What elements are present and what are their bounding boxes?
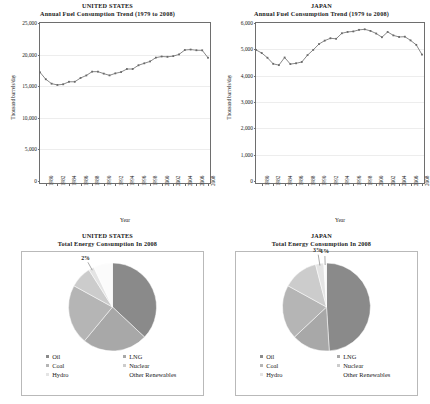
y-tick-label: 5,000 xyxy=(25,146,40,152)
legend-item-other-renewables[interactable]: Other Renewables xyxy=(337,371,410,378)
x-tick-mark xyxy=(342,183,343,186)
y-tick-label: 5,000 xyxy=(241,46,256,52)
japan-pie-graphic: 49%14%20%13%3%1% xyxy=(236,252,419,354)
legend-item-lng[interactable]: LNG xyxy=(337,353,410,360)
y-tick-label: 25,000 xyxy=(22,20,40,26)
us-line-plot-area: 05,00010,00015,00020,00025,0001980198219… xyxy=(39,22,211,184)
legend-swatch-other-renewables xyxy=(337,373,340,376)
legend-label: Nuclear xyxy=(343,362,363,369)
x-tick-mark xyxy=(127,183,128,186)
legend-swatch-oil xyxy=(46,355,49,358)
us-pie-graphic: 37%24%22%8%2%7% xyxy=(22,252,205,354)
legend-swatch-nuclear xyxy=(123,364,126,367)
japan-pie-plot-area: 49%14%20%13%3%1% OilLNGCoalNuclearHydroO… xyxy=(235,251,418,396)
x-tick-mark xyxy=(46,183,47,186)
legend-item-nuclear[interactable]: Nuclear xyxy=(337,362,410,369)
x-tick-mark xyxy=(262,183,263,186)
legend-label: Oil xyxy=(52,353,60,360)
legend-swatch-lng xyxy=(337,355,340,358)
legend-swatch-coal xyxy=(46,364,49,367)
legend-swatch-oil xyxy=(260,355,263,358)
legend-item-coal[interactable]: Coal xyxy=(260,362,333,369)
x-tick-mark xyxy=(196,183,197,186)
y-tick-label: 4,000 xyxy=(241,73,256,79)
pie-slices xyxy=(236,252,419,354)
japan-pie-chart-panel: JAPAN Total Energy Consumption In 2008 4… xyxy=(214,232,429,404)
x-tick-mark xyxy=(81,183,82,186)
x-tick-mark xyxy=(353,183,354,186)
y-tick-label: 20,000 xyxy=(22,52,40,58)
legend-item-coal[interactable]: Coal xyxy=(46,362,119,369)
legend-item-other-renewables[interactable]: Other Renewables xyxy=(123,371,196,378)
legend-item-oil[interactable]: Oil xyxy=(46,353,119,360)
y-tick-label: 1,000 xyxy=(241,152,256,158)
y-tick-label: 6,000 xyxy=(241,20,256,26)
legend-item-hydro[interactable]: Hydro xyxy=(46,371,119,378)
x-tick-mark xyxy=(330,183,331,186)
legend-label: Coal xyxy=(266,362,278,369)
us-line-chart-panel: UNITED STATES Annual Fuel Consumption Tr… xyxy=(0,2,215,228)
x-tick-mark xyxy=(69,183,70,186)
japan-line-y-axis-label: Thousand barrels/day xyxy=(226,51,232,143)
legend-swatch-lng xyxy=(123,355,126,358)
legend-label: LNG xyxy=(343,353,356,360)
legend-label: Oil xyxy=(266,353,274,360)
y-tick-label: 2,000 xyxy=(241,125,256,131)
legend-swatch-hydro xyxy=(260,373,263,376)
y-tick-label: 3,000 xyxy=(241,99,256,105)
x-tick-mark xyxy=(208,183,209,186)
japan-pie-chart-title: JAPAN Total Energy Consumption In 2008 xyxy=(214,232,429,247)
japan-line-x-axis-label: Year xyxy=(255,217,425,223)
y-tick-label: 10,000 xyxy=(22,115,40,121)
legend-item-lng[interactable]: LNG xyxy=(123,353,196,360)
x-tick-mark xyxy=(104,183,105,186)
x-tick-mark xyxy=(365,183,366,186)
legend-swatch-coal xyxy=(260,364,263,367)
japan-line-chart-panel: JAPAN Annual Fuel Consumption Trend (197… xyxy=(214,2,429,228)
x-tick-mark xyxy=(411,183,412,186)
us-line-chart-title: UNITED STATES Annual Fuel Consumption Tr… xyxy=(0,2,215,17)
pie-slice-oil[interactable] xyxy=(327,263,371,351)
x-tick-mark xyxy=(388,183,389,186)
x-tick-mark xyxy=(92,183,93,186)
x-tick-mark xyxy=(185,183,186,186)
x-tick-mark xyxy=(57,183,58,186)
legend-label: Other Renewables xyxy=(343,371,390,378)
x-tick-mark xyxy=(319,183,320,186)
y-tick-label: 15,000 xyxy=(22,83,40,89)
legend-item-oil[interactable]: Oil xyxy=(260,353,333,360)
us-pie-plot-area: 37%24%22%8%2%7% OilLNGCoalNuclearHydroOt… xyxy=(21,251,204,396)
legend-swatch-other-renewables xyxy=(123,373,126,376)
us-pie-legend: OilLNGCoalNuclearHydroOther Renewables xyxy=(46,353,196,378)
x-tick-mark xyxy=(308,183,309,186)
japan-line-chart-title: JAPAN Annual Fuel Consumption Trend (197… xyxy=(214,2,429,17)
legend-label: Hydro xyxy=(266,371,282,378)
x-tick-mark xyxy=(162,183,163,186)
legend-swatch-hydro xyxy=(46,373,49,376)
us-line-x-axis-label: Year xyxy=(39,217,211,223)
x-tick-mark xyxy=(150,183,151,186)
legend-label: Coal xyxy=(52,362,64,369)
legend-label: LNG xyxy=(129,353,142,360)
legend-label: Hydro xyxy=(52,371,68,378)
x-tick-mark xyxy=(422,183,423,186)
x-tick-mark xyxy=(285,183,286,186)
line-series xyxy=(40,23,210,183)
us-line-y-axis-label: Thousand barrels/day xyxy=(10,51,16,143)
japan-line-plot-area: 01,0002,0003,0004,0005,0006,000198019821… xyxy=(255,22,425,184)
us-pie-chart-panel: UNITED STATES Total Energy Consumption I… xyxy=(0,232,215,404)
x-tick-mark xyxy=(115,183,116,186)
us-pie-chart-title: UNITED STATES Total Energy Consumption I… xyxy=(0,232,215,247)
japan-pie-legend: OilLNGCoalNuclearHydroOther Renewables xyxy=(260,353,410,378)
legend-label: Other Renewables xyxy=(129,371,176,378)
x-tick-mark xyxy=(296,183,297,186)
x-tick-mark xyxy=(138,183,139,186)
pie-slices xyxy=(22,252,205,354)
legend-item-hydro[interactable]: Hydro xyxy=(260,371,333,378)
legend-swatch-nuclear xyxy=(337,364,340,367)
x-tick-mark xyxy=(399,183,400,186)
legend-label: Nuclear xyxy=(129,362,149,369)
legend-item-nuclear[interactable]: Nuclear xyxy=(123,362,196,369)
x-tick-label: 2008 xyxy=(424,176,430,186)
